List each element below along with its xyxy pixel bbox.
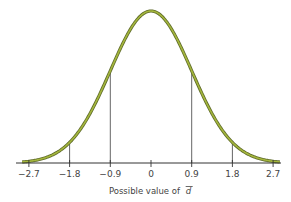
- normal-curve: [22, 11, 280, 162]
- x-tick-label: −0.9: [99, 169, 121, 179]
- normal-curve-outline: [22, 11, 280, 162]
- x-tick-label: 0.9: [185, 169, 200, 179]
- x-tick-label: −1.8: [59, 169, 81, 179]
- x-axis-title-text: Possible value of: [109, 186, 181, 196]
- reference-lines: [70, 72, 233, 163]
- x-tick-label: 0: [148, 169, 154, 179]
- x-axis-title-symbol: d: [186, 186, 192, 196]
- x-tick-label: 2.7: [266, 169, 280, 179]
- x-tick-label: 1.8: [225, 169, 240, 179]
- x-axis-title: Possible value of d: [109, 186, 192, 196]
- normal-curve-chart: −2.7−1.8−0.900.91.82.7 Possible value of…: [0, 0, 291, 202]
- x-tick-label: −2.7: [18, 169, 40, 179]
